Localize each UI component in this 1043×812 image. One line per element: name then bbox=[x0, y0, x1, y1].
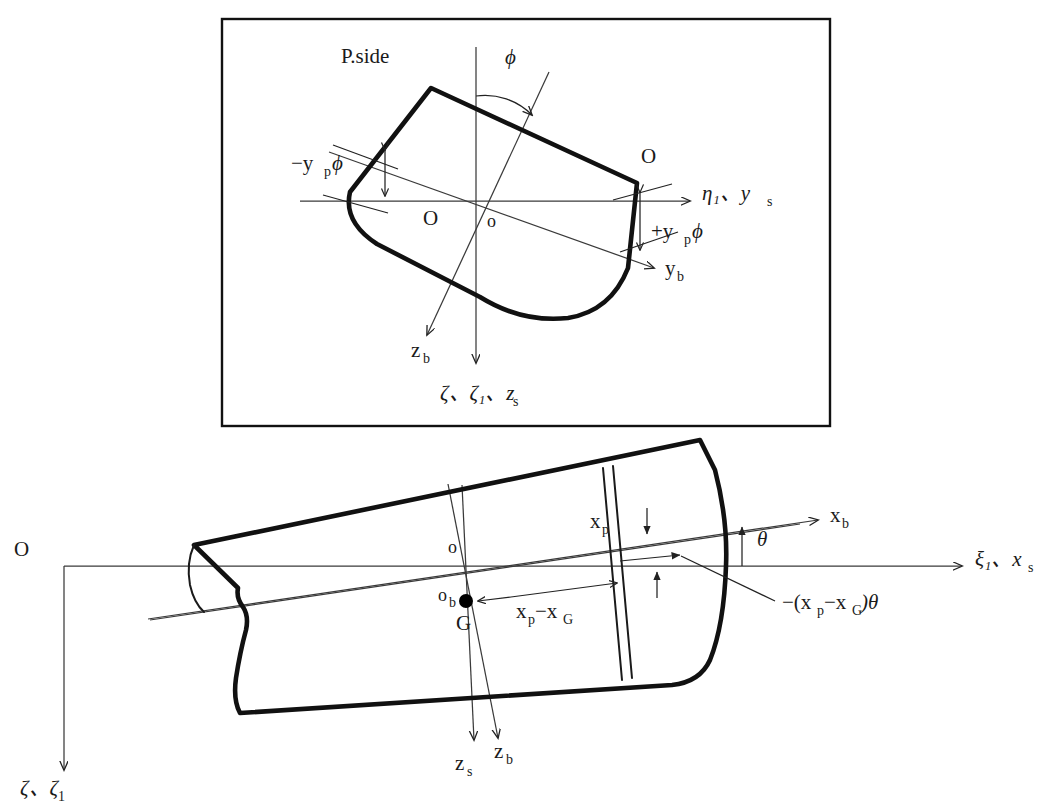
section-plane-line-left bbox=[603, 468, 622, 680]
svg-text:)θ: )θ bbox=[860, 590, 878, 614]
svg-text:p: p bbox=[528, 612, 535, 627]
center-of-gravity-marker bbox=[459, 594, 473, 608]
svg-text:ξ₁、x: ξ₁、x bbox=[975, 547, 1022, 571]
label-lower-origin-body: o bbox=[448, 537, 457, 557]
label-vertical-displacement: −(x p −x G )θ bbox=[782, 590, 878, 618]
label-starboard-side: O bbox=[641, 144, 656, 168]
svg-text:b: b bbox=[449, 595, 456, 610]
figure-root: P.side O ϕ O o η₁、y s y b z b ζ、ζ₁、z s bbox=[0, 0, 1043, 812]
svg-text:−(x: −(x bbox=[782, 590, 812, 614]
label-roll-angle: ϕ bbox=[505, 45, 516, 69]
label-axis-zeta-zs: ζ、ζ₁、z s bbox=[440, 381, 518, 409]
svg-text:x: x bbox=[590, 509, 601, 533]
svg-text:s: s bbox=[467, 764, 472, 779]
svg-text:y: y bbox=[665, 256, 676, 280]
svg-text:b: b bbox=[842, 516, 849, 531]
svg-text:s: s bbox=[1028, 560, 1033, 575]
svg-text:x: x bbox=[830, 503, 841, 527]
axis-ob-reference bbox=[150, 524, 800, 620]
svg-text:s: s bbox=[513, 394, 518, 409]
svg-text:ϕ: ϕ bbox=[332, 151, 343, 175]
dim-xp-minus-xG-left bbox=[478, 597, 511, 601]
svg-text:x: x bbox=[516, 599, 527, 623]
label-origin-baseline: o b bbox=[438, 585, 456, 610]
svg-text:G: G bbox=[563, 612, 573, 627]
svg-text:o: o bbox=[438, 585, 447, 605]
svg-text:b: b bbox=[506, 752, 513, 767]
svg-text:+y: +y bbox=[651, 219, 674, 243]
svg-text:−x: −x bbox=[824, 590, 847, 614]
dim-xp-minus-xG-right bbox=[511, 583, 617, 597]
svg-text:η₁、y: η₁、y bbox=[702, 181, 751, 205]
label-axis-zs: z s bbox=[455, 751, 472, 779]
svg-text:ζ、ζ: ζ、ζ bbox=[20, 776, 60, 800]
label-upper-origin-space: O bbox=[423, 206, 438, 230]
section-plane-line-right bbox=[613, 466, 632, 678]
label-distance-xp-xG: x p −x G bbox=[516, 599, 573, 627]
label-lower-origin: O bbox=[14, 537, 29, 561]
diagram-canvas: P.side O ϕ O o η₁、y s y b z b ζ、ζ₁、z s bbox=[0, 0, 1043, 812]
label-axis-xb: x b bbox=[830, 503, 849, 531]
svg-text:b: b bbox=[677, 269, 684, 284]
label-axis-zb-bottom: z b bbox=[494, 739, 513, 767]
axis-zb bbox=[427, 72, 549, 335]
label-axis-zeta-zeta1: ζ、ζ 1 bbox=[20, 776, 65, 804]
svg-text:b: b bbox=[423, 351, 430, 366]
svg-text:z: z bbox=[411, 338, 420, 362]
label-displacement-port: −y p ϕ bbox=[291, 151, 343, 179]
label-port-side: P.side bbox=[341, 44, 389, 68]
label-pitch-angle: θ bbox=[757, 527, 767, 551]
label-upper-origin-body: o bbox=[487, 211, 496, 231]
svg-text:p: p bbox=[602, 522, 609, 537]
svg-text:p: p bbox=[684, 232, 691, 247]
svg-text:1: 1 bbox=[58, 789, 65, 804]
label-axis-eta1-ys: η₁、y s bbox=[702, 181, 772, 209]
svg-text:−x: −x bbox=[535, 599, 558, 623]
label-axis-yb: y b bbox=[665, 256, 684, 284]
svg-text:z: z bbox=[494, 739, 503, 763]
hull-section bbox=[349, 88, 637, 319]
svg-text:z: z bbox=[455, 751, 464, 775]
lower-panel: O o o b G ξ₁、x s x b θ x p x p bbox=[14, 440, 1033, 804]
svg-text:p: p bbox=[817, 603, 824, 618]
label-axis-xi1-xs: ξ₁、x s bbox=[975, 547, 1033, 575]
svg-text:ϕ: ϕ bbox=[692, 219, 703, 243]
svg-text:−y: −y bbox=[291, 151, 314, 175]
ship-profile bbox=[194, 440, 726, 713]
svg-text:s: s bbox=[767, 194, 772, 209]
upper-panel: P.side O ϕ O o η₁、y s y b z b ζ、ζ₁、z s bbox=[222, 19, 830, 426]
label-axis-zb-upper: z b bbox=[411, 338, 430, 366]
arrow-vertical-displacement bbox=[620, 555, 680, 561]
svg-text:p: p bbox=[324, 164, 331, 179]
svg-text:ζ、ζ₁、z: ζ、ζ₁、z bbox=[440, 381, 514, 405]
label-center-of-gravity: G bbox=[456, 611, 471, 635]
